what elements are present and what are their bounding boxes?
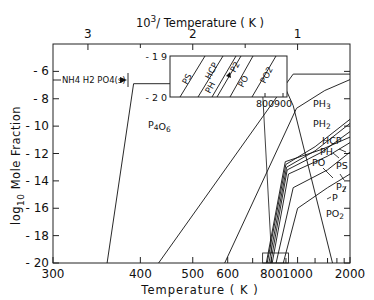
x-axis-title: Temperature ( K ) (140, 283, 258, 297)
x2-tick-label: 1 (294, 27, 302, 41)
label-ph3: PH3 (313, 98, 331, 111)
inset-y-tick-label: - 2 0 (145, 92, 167, 103)
x2-tick-label: 3 (84, 27, 92, 41)
y-tick-label: - 16 (26, 201, 49, 215)
nh4-label: NH4 H2 PO4(s) (62, 75, 126, 85)
x-tick-label: 500 (181, 267, 204, 281)
x-tick-label: 800 (260, 267, 283, 281)
y-tick-label: - 14 (26, 174, 49, 188)
x-tick-label: 600 (216, 267, 239, 281)
chart: 30040050060080010002000Temperature ( K )… (0, 0, 374, 300)
y-tick-label: - 8 (33, 92, 49, 106)
inset-x-tick-label: 800 (256, 98, 274, 109)
label-po: PO (312, 157, 325, 168)
series-line-p4o6 (107, 84, 332, 263)
y-tick-label: - 20 (26, 256, 49, 270)
label-hcp: HCP (322, 135, 342, 146)
label-po2: PO2 (326, 208, 344, 221)
inset-y-tick-label: - 1 9 (145, 51, 167, 62)
x-tick-label: 2000 (335, 267, 366, 281)
label-p: P (332, 192, 338, 203)
y-axis-title: log10 Mole Fraction (9, 106, 26, 225)
y-tick-label: - 12 (26, 147, 49, 161)
phase-chart-svg: 30040050060080010002000Temperature ( K )… (0, 0, 374, 300)
pointer-hcp (339, 149, 346, 152)
label-ph2: PH2 (313, 118, 331, 131)
label-ps: PS (336, 160, 348, 171)
y-tick-label: - 10 (26, 119, 49, 133)
label-p4o6: P4O6 (148, 119, 171, 134)
pointer-p (327, 197, 331, 199)
y-tick-label: - 18 (26, 229, 49, 243)
inset-x-tick-label: 900 (274, 98, 292, 109)
series-line-po (271, 132, 350, 263)
x-tick-label: 400 (129, 267, 152, 281)
x-tick-label: 1000 (282, 267, 313, 281)
x2-axis-title: 103/ Temperature ( K ) (136, 14, 264, 30)
pointer-ph (333, 153, 339, 158)
label-ph: PH (320, 146, 333, 157)
y-tick-label: - 6 (33, 64, 49, 78)
